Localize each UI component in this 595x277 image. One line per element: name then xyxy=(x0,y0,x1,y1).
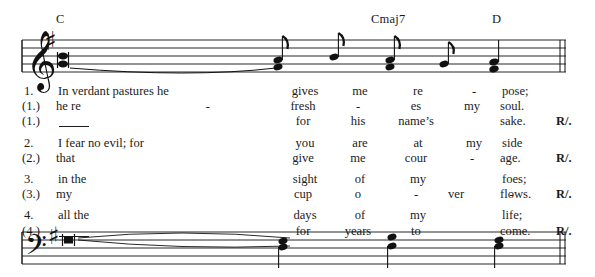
lyric-seg-c: me xyxy=(332,151,384,166)
lyric-seg-a-text: he re xyxy=(56,99,81,114)
lyric-row: 3. in the sight of my foes; xyxy=(22,172,574,187)
verse-number: 1. xyxy=(22,84,58,99)
lyric-seg-e: my xyxy=(450,136,498,151)
lyric-seg-e-text: ver xyxy=(448,187,464,201)
lyric-seg-b: fresh xyxy=(274,99,332,114)
lyric-seg-d: name’s xyxy=(384,114,448,129)
lyric-seg-c: are xyxy=(334,136,386,151)
lyric-seg-f: sake. xyxy=(496,114,556,129)
note-bass-chord-2 xyxy=(387,233,398,268)
lyric-seg-d: my xyxy=(386,172,450,187)
lyric-row: (1.) for his name’s sake. R/. xyxy=(22,114,574,129)
lyric-seg-b: for xyxy=(274,114,332,129)
note-breve-chord-1 xyxy=(58,52,69,68)
lyric-seg-f: soul. xyxy=(496,99,556,114)
lyric-seg-e: ver - xyxy=(448,187,496,202)
blank-underline xyxy=(59,117,89,127)
lyric-row: (1.) he re - fresh - es my soul. xyxy=(22,99,574,114)
lyric-seg-d: at xyxy=(386,136,450,151)
lyric-seg-f: side xyxy=(498,136,558,151)
note-breve-bass xyxy=(63,234,75,246)
lyric-seg-b: cup xyxy=(274,187,332,202)
note-me xyxy=(329,33,344,61)
lyric-seg-a: in the xyxy=(58,172,276,187)
lyric-seg-b: sight xyxy=(276,172,334,187)
lyric-row: 1. In verdant pastures he gives me re - … xyxy=(22,84,574,99)
verse-number: 2. xyxy=(22,136,58,151)
lyric-seg-f: foes; xyxy=(498,172,558,187)
lyric-seg-f: age. xyxy=(496,151,556,166)
verse-number: (2.) xyxy=(22,151,56,166)
response-marker: R/. xyxy=(556,151,582,166)
lyric-seg-d: - xyxy=(384,187,448,202)
response-marker: R/. xyxy=(556,187,582,202)
verse-group-3: 3. in the sight of my foes; (3.) my cup … xyxy=(22,172,574,202)
lyric-seg-b: gives xyxy=(276,84,334,99)
lyric-row: 2. I fear no evil; for you are at my sid… xyxy=(22,136,574,151)
lyric-seg-f: pose; xyxy=(498,84,558,99)
lyric-seg-d: cour xyxy=(384,151,448,166)
lyric-seg-b: give xyxy=(274,151,332,166)
verse-group-2: 2. I fear no evil; for you are at my sid… xyxy=(22,136,574,166)
lyric-seg-a: that xyxy=(56,151,274,166)
verse-number: (1.) xyxy=(22,114,56,129)
lyric-seg-b: days xyxy=(276,208,334,223)
note-syllable-dash xyxy=(439,42,454,68)
lyric-seg-c: his xyxy=(332,114,384,129)
verse-number: (1.) xyxy=(22,99,56,114)
lyrics-block: 1. In verdant pastures he gives me re - … xyxy=(22,84,574,245)
note-re xyxy=(385,36,400,71)
lyric-seg-d: es xyxy=(384,99,448,114)
verse-group-1: 1. In verdant pastures he gives me re - … xyxy=(22,84,574,130)
lyric-seg-d: re xyxy=(386,84,450,99)
lyric-row: (3.) my cup o - ver - flows. R/. xyxy=(22,187,574,202)
lyric-seg-a-dash: - xyxy=(206,99,274,114)
lyric-seg-f: flows. xyxy=(496,187,556,202)
lyric-seg-c: me xyxy=(334,84,386,99)
lyric-seg-c: - xyxy=(332,99,384,114)
lyric-seg-a: he re - xyxy=(56,99,274,114)
lyric-row: 4. all the days of my life; xyxy=(22,208,574,223)
lyric-seg-a: my xyxy=(56,187,274,202)
lyric-seg-c: o xyxy=(332,187,384,202)
lyric-seg-f: life; xyxy=(498,208,558,223)
lyric-seg-c: of xyxy=(334,172,386,187)
lyric-seg-a xyxy=(56,114,274,129)
lyric-row: (2.) that give me cour - age. R/. xyxy=(22,151,574,166)
slur xyxy=(78,240,290,247)
lyric-seg-a: In verdant pastures he xyxy=(58,84,276,99)
sharp-icon: ♯ xyxy=(44,26,57,56)
lyric-seg-a: I fear no evil; for xyxy=(58,136,276,151)
verse-number: 4. xyxy=(22,208,58,223)
score-page: C Cmaj7 D 𝄞 ♯ xyxy=(0,0,595,277)
lyric-seg-c: of xyxy=(334,208,386,223)
lyric-seg-d: my xyxy=(386,208,450,223)
lyric-seg-e: - xyxy=(450,84,498,99)
note-pose-chord xyxy=(488,40,499,74)
verse-number: (3.) xyxy=(22,187,56,202)
bass-clef-icon: 𝄢 xyxy=(25,228,47,268)
note-gives xyxy=(273,36,288,71)
slur-upper xyxy=(78,233,290,238)
response-marker: R/. xyxy=(556,114,582,129)
note-bass-chord-1 xyxy=(278,237,289,268)
sharp-icon: ♯ xyxy=(48,224,60,250)
note-bass-chord-3 xyxy=(494,236,505,268)
lyric-seg-b: you xyxy=(276,136,334,151)
lyric-seg-e: my xyxy=(448,99,496,114)
lyric-seg-e: - xyxy=(448,151,496,166)
bass-staff: 𝄢 ♯ xyxy=(0,224,595,277)
lyric-seg-a: all the xyxy=(58,208,276,223)
verse-number: 3. xyxy=(22,172,58,187)
